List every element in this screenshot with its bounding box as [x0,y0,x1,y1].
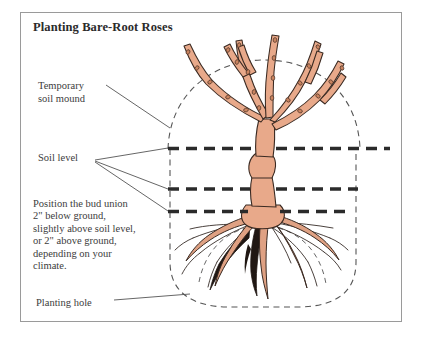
root-main-center [260,218,270,299]
label-planting-hole: Planting hole [36,297,92,310]
soil-level-lines [168,149,390,212]
leader-temporary-soil-mound [106,85,170,128]
stem-upper [256,119,275,157]
stem-lower [251,177,277,207]
diagram-artwork [0,0,424,338]
root-crown [242,205,285,229]
leader-soil-level-middle [95,161,168,189]
label-soil-level: Soil level [38,152,78,165]
root-dark-fork [245,244,251,274]
rose-planting-diagram: Planting Bare-Root Roses [0,0,424,338]
root-system [175,205,348,299]
label-bud-union-note: Position the bud union 2" below ground, … [33,198,136,272]
main-stem [249,119,276,207]
leader-planting-hole [114,294,190,300]
label-temporary-soil-mound: Temporary soil mound [38,80,85,105]
leader-soil-level-upper [95,148,168,160]
